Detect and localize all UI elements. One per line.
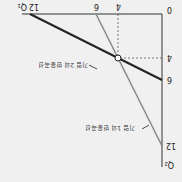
- x-axis-label: Q₁: [17, 2, 27, 11]
- firm1-pointer: [142, 125, 149, 129]
- firm2-pointer: [89, 65, 97, 69]
- tick-x12: 12: [29, 2, 39, 11]
- tick-y4: 4: [167, 53, 172, 62]
- tick-y6: 6: [167, 75, 172, 84]
- chart-container: 0 4 6 12 Q₁ 4 6 12 Q₂ 기업 1의 반응곡선 기업 2의 반…: [0, 0, 182, 182]
- tick-y12: 12: [166, 141, 176, 150]
- firm2-reaction-curve: [30, 14, 162, 80]
- firm1-label: 기업 1의 반응곡선: [85, 124, 135, 132]
- tick-x6: 6: [94, 2, 99, 11]
- firm2-label: 기업 2의 반응곡선: [38, 61, 88, 69]
- y-axis-label: Q₂: [164, 160, 174, 169]
- tick-x4: 4: [116, 2, 121, 11]
- equilibrium-point: [115, 55, 121, 61]
- reaction-curve-chart: 0 4 6 12 Q₁ 4 6 12 Q₂ 기업 1의 반응곡선 기업 2의 반…: [0, 0, 182, 182]
- origin-label: 0: [167, 5, 172, 14]
